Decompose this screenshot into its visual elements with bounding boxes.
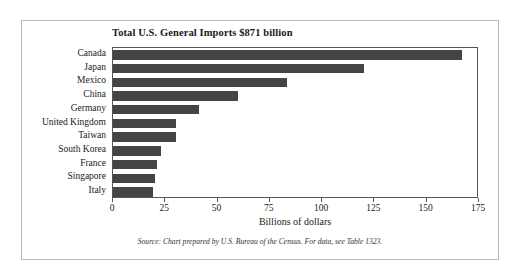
bar: [113, 187, 153, 197]
chart-figure: Total U.S. General Imports $871 billion …: [0, 0, 521, 279]
x-axis-tick-mark: [321, 198, 322, 202]
y-axis-tick-label: Mexico: [18, 74, 109, 88]
bar: [113, 91, 238, 101]
x-axis-title: Billions of dollars: [112, 216, 478, 227]
bar-row: [113, 89, 477, 103]
bar-row: [113, 117, 477, 131]
y-axis-tick-label: Japan: [18, 61, 109, 75]
bar-row: [113, 158, 477, 172]
y-axis-tick-label: Canada: [18, 47, 109, 61]
x-axis-tick-mark: [164, 198, 165, 202]
x-axis-tick-label: 0: [110, 203, 115, 213]
y-axis-tick-label: China: [18, 88, 109, 102]
y-axis-tick-label: Italy: [18, 184, 109, 198]
x-axis-tick-label: 25: [160, 203, 170, 213]
y-axis-tick-label: Taiwan: [18, 129, 109, 143]
bar: [113, 64, 364, 74]
x-axis-tick-label: 100: [314, 203, 328, 213]
bar: [113, 78, 287, 88]
bar: [113, 146, 161, 156]
bar: [113, 174, 155, 184]
bar-row: [113, 144, 477, 158]
bar: [113, 119, 176, 129]
x-axis-tick-mark: [373, 198, 374, 202]
bar-row: [113, 103, 477, 117]
y-axis-tick-label: France: [18, 157, 109, 171]
bar-row: [113, 62, 477, 76]
bar-row: [113, 130, 477, 144]
bars-layer: [113, 48, 477, 197]
bar: [113, 132, 176, 142]
x-axis-tick-mark: [269, 198, 270, 202]
x-axis-tick-label: 50: [212, 203, 222, 213]
x-axis-tick-mark: [426, 198, 427, 202]
source-note: Source: Chart prepared by U.S. Bureau of…: [21, 237, 499, 246]
y-axis-tick-label: United Kingdom: [18, 116, 109, 130]
bar: [113, 105, 199, 115]
x-axis-tick-label: 125: [366, 203, 380, 213]
y-axis-category-labels: CanadaJapanMexicoChinaGermanyUnited King…: [18, 47, 109, 198]
x-axis-tick-label: 150: [419, 203, 433, 213]
y-axis-tick-label: Singapore: [18, 170, 109, 184]
x-axis-tick-mark: [478, 198, 479, 202]
plot-area: [112, 47, 478, 198]
bar-row: [113, 75, 477, 89]
x-axis-tick-mark: [217, 198, 218, 202]
bar: [113, 160, 157, 170]
bar-row: [113, 48, 477, 62]
y-axis-tick-label: Germany: [18, 102, 109, 116]
x-axis-tick-label: 175: [471, 203, 485, 213]
bar: [113, 50, 462, 60]
chart-title: Total U.S. General Imports $871 billion: [112, 27, 293, 38]
x-axis-tick-label: 75: [264, 203, 274, 213]
y-axis-tick-label: South Korea: [18, 143, 109, 157]
x-axis-tick-mark: [112, 198, 113, 202]
bar-row: [113, 171, 477, 185]
bar-row: [113, 185, 477, 199]
